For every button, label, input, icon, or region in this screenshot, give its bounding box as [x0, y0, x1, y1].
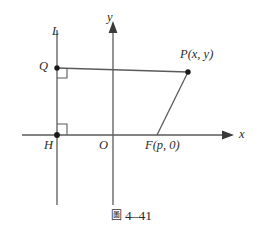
point-dot-P	[185, 69, 190, 74]
figure-caption: 圖4–41	[0, 206, 263, 224]
label-point-Q: Q	[39, 60, 48, 73]
figure-caption-prefix: 圖	[111, 206, 122, 222]
label-point-F: F(p, 0)	[145, 139, 180, 152]
label-origin-O: O	[99, 139, 108, 152]
point-dot-Q	[54, 65, 59, 70]
label-axis-y: y	[107, 11, 113, 24]
label-directrix-L: L	[52, 25, 59, 38]
label-axis-x: x	[239, 128, 245, 141]
x-axis-arrowhead	[222, 131, 234, 140]
label-point-H: H	[44, 139, 53, 152]
figure-container: L Q P(x, y) H O F(p, 0) x y 圖4–41	[0, 0, 263, 242]
segment-FP	[157, 72, 188, 135]
segment-QP	[57, 68, 188, 72]
point-dot-H	[54, 132, 60, 138]
label-point-P: P(x, y)	[180, 48, 213, 61]
figure-caption-number: 4–41	[125, 208, 152, 224]
